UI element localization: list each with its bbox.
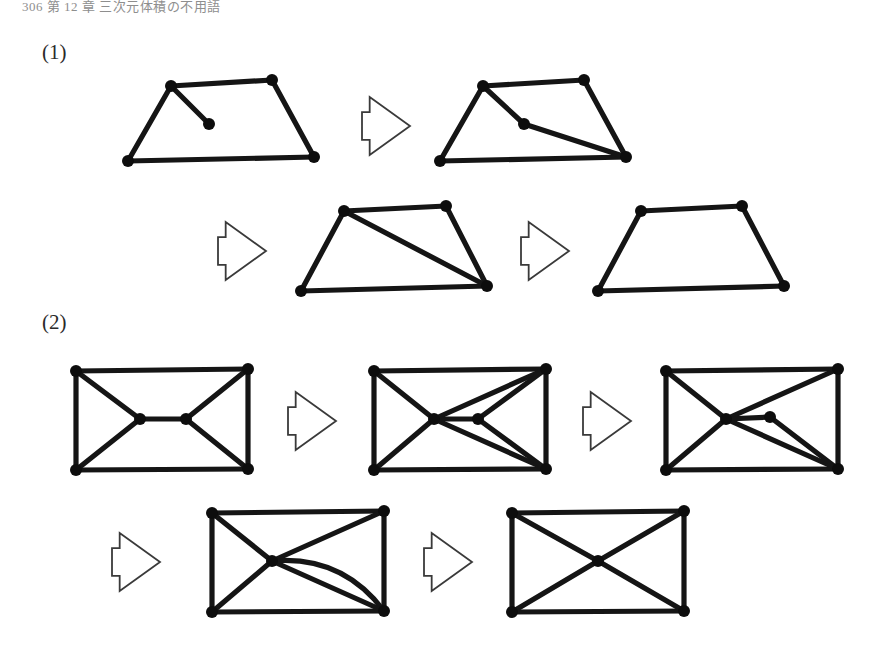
graph-edge — [512, 513, 598, 561]
arrow-2-2 — [583, 392, 631, 450]
graph-edge — [598, 561, 684, 611]
graph-node — [266, 74, 278, 86]
arrow-2-4 — [424, 533, 472, 591]
graph-edge — [770, 417, 838, 469]
arrow-2-1 — [288, 392, 336, 450]
graph-edge — [76, 369, 248, 371]
graph-edge — [512, 561, 598, 612]
graph-2e — [506, 505, 690, 618]
graph-edge — [76, 469, 248, 470]
graph-node — [70, 464, 82, 476]
graph-edge — [374, 369, 546, 371]
graph-node — [266, 555, 278, 567]
arrow-2-3 — [112, 533, 160, 591]
graph-edge — [512, 511, 684, 513]
graph-node — [472, 413, 484, 425]
graph-node — [660, 464, 672, 476]
page-header-text: 306 第 12 章 三次元体積の不用語 — [22, 0, 221, 15]
graph-edge — [641, 206, 742, 211]
graph-edge — [344, 211, 487, 286]
graph-2d — [206, 505, 390, 618]
graph-edge — [76, 419, 140, 470]
graph-node — [203, 118, 215, 130]
arrow-1-3 — [521, 222, 569, 280]
graph-edge — [171, 80, 272, 86]
graph-node — [434, 155, 446, 167]
graph-node — [540, 463, 552, 475]
graph-node — [440, 200, 452, 212]
graph-edge — [212, 511, 384, 513]
graph-edge — [374, 371, 434, 419]
graph-edge — [212, 513, 272, 561]
graph-edge — [446, 206, 487, 286]
graph-edge — [301, 211, 344, 291]
graph-edge — [666, 419, 726, 470]
graph-edge — [524, 124, 626, 157]
graph-node — [578, 74, 590, 86]
graph-node — [678, 605, 690, 617]
graph-transformation-figure — [0, 0, 872, 663]
graph-edge — [171, 86, 209, 124]
graph-edge — [726, 419, 838, 469]
graph-node — [134, 413, 146, 425]
graph-edge — [584, 80, 626, 157]
graph-node — [122, 155, 134, 167]
graph-edge — [483, 80, 584, 86]
graph-node — [165, 80, 177, 92]
graph-node — [428, 413, 440, 425]
graph-edge — [272, 80, 314, 157]
graph-edge — [478, 369, 546, 419]
graph-node — [518, 118, 530, 130]
graph-1a — [122, 74, 320, 167]
graph-edge — [301, 286, 487, 291]
graph-node — [242, 363, 254, 375]
graph-edge — [440, 157, 626, 161]
graph-edge — [598, 211, 641, 291]
graph-1b — [434, 74, 632, 167]
sequence-1 — [122, 74, 790, 297]
item-label-2: (2) — [42, 310, 67, 335]
graph-node — [778, 280, 790, 292]
graph-node — [832, 463, 844, 475]
graph-edge — [440, 86, 483, 161]
graph-edge — [186, 369, 248, 419]
graph-node — [368, 365, 380, 377]
graph-edge — [128, 157, 314, 161]
graph-node — [378, 605, 390, 617]
graph-node — [540, 363, 552, 375]
item-label-1: (1) — [42, 40, 67, 65]
graph-edge — [272, 511, 384, 561]
graph-edge — [434, 369, 546, 419]
graph-node — [242, 463, 254, 475]
sequence-2 — [70, 363, 844, 618]
graph-node — [477, 80, 489, 92]
graph-node — [832, 363, 844, 375]
graph-node — [764, 411, 776, 423]
graph-edge — [344, 206, 446, 211]
graph-node — [295, 285, 307, 297]
graph-node — [206, 606, 218, 618]
graph-node — [506, 606, 518, 618]
graph-edge — [598, 511, 684, 561]
graph-edge — [478, 419, 546, 469]
graph-node — [736, 200, 748, 212]
graph-edge — [666, 369, 838, 371]
graph-node — [180, 413, 192, 425]
graph-2b — [368, 363, 552, 476]
graph-edge — [483, 86, 524, 124]
figure-page: 306 第 12 章 三次元体積の不用語 (1) (2) — [0, 0, 872, 663]
graph-2a — [70, 363, 254, 476]
graph-edge — [434, 419, 546, 469]
graph-edge — [742, 206, 784, 286]
graph-edge — [186, 419, 248, 469]
graph-edge — [512, 611, 684, 612]
graph-node — [481, 280, 493, 292]
graph-node — [635, 205, 647, 217]
graph-edge — [374, 469, 546, 470]
graph-edge — [128, 86, 171, 161]
graph-node — [378, 505, 390, 517]
graph-node — [308, 151, 320, 163]
graph-1c — [295, 200, 493, 297]
graph-node — [720, 413, 732, 425]
graph-node — [368, 464, 380, 476]
